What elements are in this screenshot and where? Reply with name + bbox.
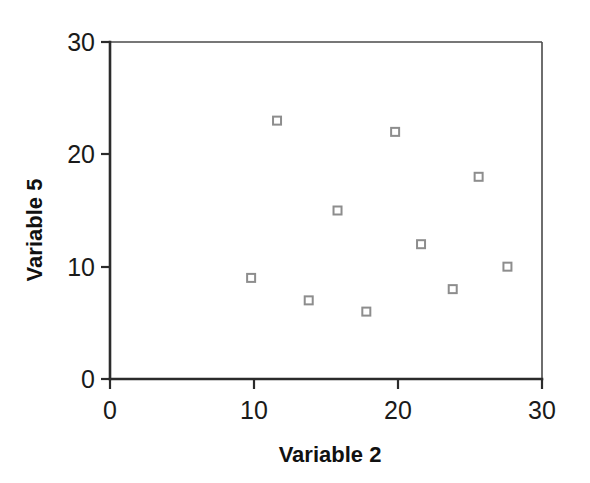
data-point (449, 285, 457, 293)
chart-canvas: 30 20 10 0 0 10 20 30 Variable 2 Variabl… (0, 0, 590, 483)
plot-area-background (110, 42, 542, 379)
y-tick-label-0: 0 (81, 365, 95, 393)
data-point (247, 274, 255, 282)
x-tick-label-30: 30 (528, 396, 556, 424)
data-point (475, 173, 483, 181)
x-tick-label-20: 20 (384, 396, 412, 424)
y-axis-ticks (101, 42, 110, 379)
data-point (334, 207, 342, 215)
y-tick-label-30: 30 (67, 28, 95, 56)
scatter-plot-figure: 30 20 10 0 0 10 20 30 Variable 2 Variabl… (0, 0, 590, 483)
y-tick-label-20: 20 (67, 140, 95, 168)
y-axis-title: Variable 5 (22, 179, 47, 282)
x-axis-title: Variable 2 (279, 442, 382, 467)
data-point (503, 263, 511, 271)
data-point (417, 240, 425, 248)
data-point (362, 308, 370, 316)
x-tick-label-0: 0 (103, 396, 117, 424)
data-point (391, 128, 399, 136)
x-tick-label-10: 10 (240, 396, 268, 424)
x-axis-ticks (110, 379, 542, 389)
y-tick-label-10: 10 (67, 253, 95, 281)
data-point (273, 117, 281, 125)
data-point (305, 296, 313, 304)
